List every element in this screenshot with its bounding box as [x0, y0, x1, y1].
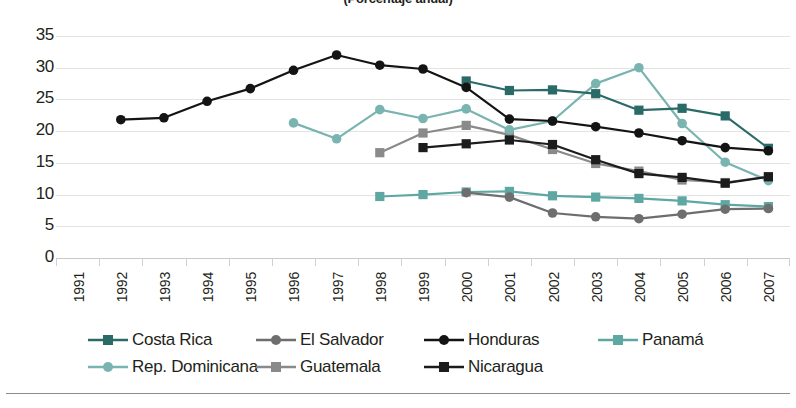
- data-point: [591, 79, 601, 89]
- x-axis-label-2003: 2003: [589, 272, 605, 302]
- x-axis-tick: [747, 258, 748, 266]
- x-axis-tick: [704, 258, 705, 266]
- legend-label: Rep. Dominicana: [132, 357, 258, 377]
- data-point: [634, 169, 643, 178]
- data-point: [720, 204, 730, 214]
- x-axis-label-1996: 1996: [286, 272, 302, 302]
- data-point: [418, 143, 427, 152]
- legend-label: Honduras: [468, 330, 539, 350]
- legend-label: Guatemala: [300, 357, 380, 377]
- data-point: [505, 192, 515, 202]
- data-point: [548, 208, 558, 218]
- data-point: [677, 119, 687, 129]
- series-lines: [56, 36, 790, 258]
- data-point: [677, 209, 687, 219]
- data-point: [720, 143, 730, 153]
- data-point: [375, 60, 385, 70]
- legend-label: Costa Rica: [132, 330, 212, 350]
- data-point: [418, 190, 427, 199]
- legend-item-honduras[interactable]: Honduras: [422, 330, 539, 350]
- data-point: [634, 63, 644, 73]
- legend-item-costa-rica[interactable]: Costa Rica: [86, 330, 212, 350]
- x-axis-label-1991: 1991: [71, 272, 87, 302]
- series-rep-dominicana: [289, 63, 774, 186]
- data-point: [591, 193, 600, 202]
- data-point: [721, 111, 730, 120]
- x-axis-tick: [142, 258, 143, 266]
- y-axis-tick-35: 35: [14, 25, 54, 45]
- data-point: [548, 140, 557, 149]
- legend-row: Costa RicaEl SalvadorHondurasPanamá: [56, 330, 796, 356]
- legend-item-rep-dominicana[interactable]: Rep. Dominicana: [86, 357, 258, 377]
- plot-area: [56, 36, 790, 258]
- y-axis-tick-30: 30: [14, 57, 54, 77]
- data-point: [591, 212, 601, 222]
- legend-marker-icon: [254, 359, 298, 375]
- x-axis-label-2005: 2005: [675, 272, 691, 302]
- y-axis-tick-5: 5: [14, 215, 54, 235]
- data-point: [375, 148, 384, 157]
- data-point: [461, 83, 471, 93]
- data-point: [418, 128, 427, 137]
- data-point: [289, 118, 299, 128]
- data-point: [764, 204, 774, 214]
- x-axis-label-1995: 1995: [243, 272, 259, 302]
- data-point: [634, 194, 643, 203]
- data-point: [246, 84, 256, 94]
- data-point: [591, 155, 600, 164]
- data-point: [505, 114, 515, 124]
- x-axis-label-2006: 2006: [718, 272, 734, 302]
- x-axis-label-2002: 2002: [546, 272, 562, 302]
- data-point: [505, 135, 514, 144]
- data-point: [332, 134, 342, 144]
- data-point: [634, 106, 643, 115]
- x-axis-tick: [229, 258, 230, 266]
- data-point: [332, 50, 342, 60]
- data-point: [678, 196, 687, 205]
- series-guatemala: [375, 121, 773, 187]
- x-axis-labels: 1991199219931994199519961997199819992000…: [56, 258, 790, 328]
- data-point: [375, 192, 384, 201]
- series-panam: [375, 187, 773, 211]
- legend-item-nicaragua[interactable]: Nicaragua: [422, 357, 543, 377]
- data-point: [159, 113, 169, 123]
- x-axis-label-2001: 2001: [502, 272, 518, 302]
- data-point: [591, 89, 600, 98]
- y-axis-tick-15: 15: [14, 152, 54, 172]
- data-point: [418, 114, 428, 124]
- legend-label: Nicaragua: [468, 357, 543, 377]
- legend-label: Panamá: [642, 330, 704, 350]
- x-axis-label-1994: 1994: [200, 272, 216, 302]
- x-axis-tick: [186, 258, 187, 266]
- x-axis-label-1999: 1999: [416, 272, 432, 302]
- x-axis-tick: [574, 258, 575, 266]
- data-point: [678, 104, 687, 113]
- legend-marker-icon: [596, 332, 640, 348]
- x-axis-tick: [315, 258, 316, 266]
- legend-marker-icon: [422, 332, 466, 348]
- legend-item-el-salvador[interactable]: El Salvador: [254, 330, 384, 350]
- chart-title: (Porcentaje anual): [0, 0, 796, 6]
- data-point: [764, 172, 773, 181]
- data-point: [720, 157, 730, 167]
- y-axis-tick-10: 10: [14, 184, 54, 204]
- legend-label: El Salvador: [300, 330, 384, 350]
- series-honduras: [116, 50, 773, 155]
- data-point: [375, 105, 385, 115]
- data-point: [678, 173, 687, 182]
- x-axis-tick: [445, 258, 446, 266]
- legend-marker-icon: [86, 359, 130, 375]
- y-axis-tick-20: 20: [14, 120, 54, 140]
- legend-marker-icon: [254, 332, 298, 348]
- data-point: [677, 136, 687, 146]
- data-point: [591, 122, 601, 132]
- legend-item-panam[interactable]: Panamá: [596, 330, 704, 350]
- chart-legend: Costa RicaEl SalvadorHondurasPanamáRep. …: [56, 330, 796, 386]
- x-axis-tick: [531, 258, 532, 266]
- legend-item-guatemala[interactable]: Guatemala: [254, 357, 380, 377]
- series-nicaragua: [418, 135, 773, 187]
- data-point: [721, 179, 730, 188]
- data-point: [764, 146, 774, 156]
- x-axis-tick: [401, 258, 402, 266]
- data-point: [548, 116, 558, 126]
